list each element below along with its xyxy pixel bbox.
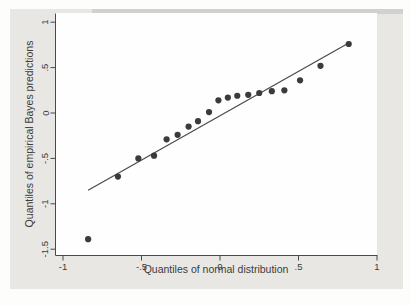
x-tick-label: 1 [374,261,379,272]
data-point [206,109,212,115]
data-point [186,124,192,130]
data-point [115,173,121,179]
data-point [175,132,181,138]
data-point [281,87,287,93]
qq-plot-chart: -1-.50.511.50-.5-1-1.5 Quantiles of norm… [0,0,411,306]
y-tick-label: -1.5 [40,241,51,257]
y-tick-label: 0 [40,110,51,115]
data-point [225,94,231,100]
y-tick-label: -1 [40,200,51,208]
data-point [317,63,323,69]
y-tick-label: -.5 [40,153,51,164]
data-point [234,93,240,99]
data-point [85,236,91,242]
plot-area [55,13,377,256]
x-tick-label: .5 [295,261,303,272]
y-tick-label: 1 [40,20,51,25]
data-point [297,77,303,83]
data-point [269,88,275,94]
data-point [245,92,251,98]
data-point [256,90,262,96]
y-axis-title: Quantiles of empirical Bayes predictions [23,41,35,228]
x-axis-title: Quantiles of normal distribution [144,263,289,275]
data-point [151,153,157,159]
data-point [215,97,221,103]
y-tick-label: .5 [40,64,51,72]
scanned-page: -1-.50.511.50-.5-1-1.5 Quantiles of norm… [0,0,411,306]
x-tick-label: -1 [59,261,67,272]
data-point [195,118,201,124]
data-point [135,155,141,161]
data-point [164,136,170,142]
data-point [346,41,352,47]
